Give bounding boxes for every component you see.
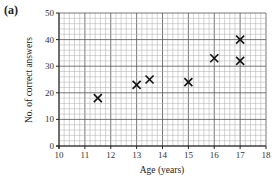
x-tick-label: 11: [81, 150, 90, 160]
y-tick-label: 30: [45, 61, 55, 71]
y-tick-label: 0: [50, 141, 55, 151]
axis-ticks: 10111213141516171801020304050: [45, 8, 271, 160]
x-tick-label: 17: [236, 150, 246, 160]
y-tick-label: 20: [45, 88, 55, 98]
data-points: [94, 36, 244, 103]
x-tick-label: 10: [55, 150, 65, 160]
y-tick-label: 40: [45, 35, 55, 45]
y-tick-label: 10: [45, 114, 55, 124]
y-axis-label: No. of correct answers: [24, 37, 34, 123]
x-tick-label: 13: [132, 150, 142, 160]
y-tick-label: 50: [45, 8, 55, 18]
x-tick-label: 18: [262, 150, 272, 160]
x-tick-label: 12: [106, 150, 115, 160]
scatter-chart: 10111213141516171801020304050 Age (years…: [0, 0, 275, 180]
x-tick-label: 14: [158, 150, 168, 160]
x-tick-label: 15: [184, 150, 194, 160]
x-axis-label: Age (years): [140, 165, 185, 176]
grid: [56, 13, 266, 149]
x-tick-label: 16: [210, 150, 220, 160]
